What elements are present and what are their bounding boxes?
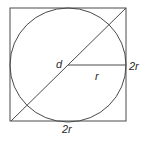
side-right-label: 2r bbox=[128, 60, 140, 72]
side-bottom-label: 2r bbox=[61, 123, 73, 135]
diameter-label: d bbox=[56, 58, 63, 70]
radius-label: r bbox=[95, 70, 100, 82]
inscribed-circle-diagram: d r 2r 2r bbox=[0, 0, 148, 141]
